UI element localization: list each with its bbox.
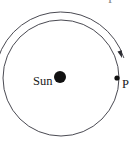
point-p-marker-dot — [114, 75, 119, 80]
top-clipped-text-fragment: P — [108, 0, 115, 6]
orbit-diagram-figure: Sun P P — [0, 0, 135, 141]
orbit-diagram-canvas: Sun P P — [0, 0, 135, 141]
point-p-label: P — [122, 77, 129, 91]
sun-body-dot — [54, 71, 66, 83]
sun-label: Sun — [33, 74, 53, 88]
